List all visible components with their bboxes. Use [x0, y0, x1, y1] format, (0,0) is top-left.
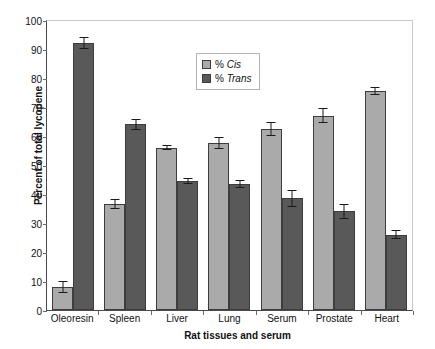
bar-slot: [261, 21, 282, 310]
legend-pct-cis: %: [215, 59, 227, 70]
x-tick-label: Lung: [203, 313, 255, 324]
bar-trans: [334, 211, 355, 310]
bar-slot: [282, 21, 303, 310]
y-tick-mark: [43, 311, 47, 312]
x-tick-label: Heart: [361, 313, 413, 324]
error-bar: [375, 87, 376, 96]
legend-item-trans: % Trans: [202, 71, 252, 85]
bar-group: [47, 21, 99, 310]
bar-group: [99, 21, 151, 310]
bar-group: [308, 21, 360, 310]
y-tick-label: 60: [31, 132, 42, 143]
legend-swatch-cis-icon: [202, 60, 211, 69]
legend-name-trans: Trans: [227, 73, 252, 84]
y-tick-label: 100: [25, 16, 42, 27]
y-tick-label: 10: [31, 277, 42, 288]
y-tick-label: 90: [31, 45, 42, 56]
x-tick-mark: [98, 311, 99, 315]
bar-slot: [104, 21, 125, 310]
bar-slot: [386, 21, 407, 310]
y-tick-label: 80: [31, 74, 42, 85]
bar-trans: [229, 184, 250, 310]
bar-trans: [177, 181, 198, 310]
x-axis-tick-labels: OleoresinSpleenLiverLungSerumProstateHea…: [46, 313, 413, 324]
bar-slot: [52, 21, 73, 310]
y-tick-label: 30: [31, 219, 42, 230]
legend-label-cis: % Cis: [215, 59, 241, 70]
bar-group: [256, 21, 308, 310]
bar-trans: [282, 198, 303, 310]
bar-cis: [208, 143, 229, 310]
error-bar: [62, 281, 63, 293]
bar-cis: [313, 116, 334, 310]
x-axis-title: Rat tissues and serum: [45, 330, 430, 341]
bar-slot: [73, 21, 94, 310]
x-tick-label: Oleoresin: [46, 313, 98, 324]
y-tick-label: 70: [31, 103, 42, 114]
error-bar: [114, 199, 115, 209]
bar-trans: [386, 235, 407, 310]
x-tick-mark: [308, 311, 309, 315]
x-tick-mark: [203, 311, 204, 315]
error-bar: [323, 108, 324, 123]
y-tick-label: 40: [31, 190, 42, 201]
bar-slot: [125, 21, 146, 310]
bar-chart: Percent of total lycopene 01020304050607…: [0, 0, 435, 349]
x-tick-label: Serum: [256, 313, 308, 324]
error-bar: [166, 145, 167, 150]
legend-label-trans: % Trans: [215, 73, 252, 84]
y-tick-label: 50: [31, 161, 42, 172]
error-bar: [83, 37, 84, 49]
bar-slot: [156, 21, 177, 310]
bar-cis: [156, 148, 177, 310]
x-tick-mark: [413, 311, 414, 315]
bar-slot: [334, 21, 355, 310]
legend-swatch-trans-icon: [202, 74, 211, 83]
bar-cis: [104, 204, 125, 310]
legend-name-cis: Cis: [227, 59, 241, 70]
x-tick-label: Liver: [151, 313, 203, 324]
bar-group: [360, 21, 412, 310]
bar-cis: [261, 129, 282, 310]
bar-slot: [365, 21, 386, 310]
bar-trans: [73, 43, 94, 310]
x-tick-mark: [151, 311, 152, 315]
x-tick-label: Spleen: [98, 313, 150, 324]
error-bar: [218, 137, 219, 149]
error-bar: [239, 180, 240, 189]
bar-slot: [313, 21, 334, 310]
error-bar: [396, 230, 397, 239]
x-tick-mark: [256, 311, 257, 315]
chart-legend: % Cis % Trans: [196, 53, 260, 90]
y-tick-label: 20: [31, 248, 42, 259]
error-bar: [135, 119, 136, 131]
x-tick-label: Prostate: [308, 313, 360, 324]
legend-pct-trans: %: [215, 73, 227, 84]
bar-trans: [125, 124, 146, 310]
legend-item-cis: % Cis: [202, 57, 252, 71]
error-bar: [292, 190, 293, 207]
error-bar: [187, 178, 188, 184]
error-bar: [271, 122, 272, 137]
x-tick-mark: [361, 311, 362, 315]
bar-cis: [365, 91, 386, 310]
y-tick-label: 0: [36, 306, 42, 317]
error-bar: [344, 204, 345, 219]
